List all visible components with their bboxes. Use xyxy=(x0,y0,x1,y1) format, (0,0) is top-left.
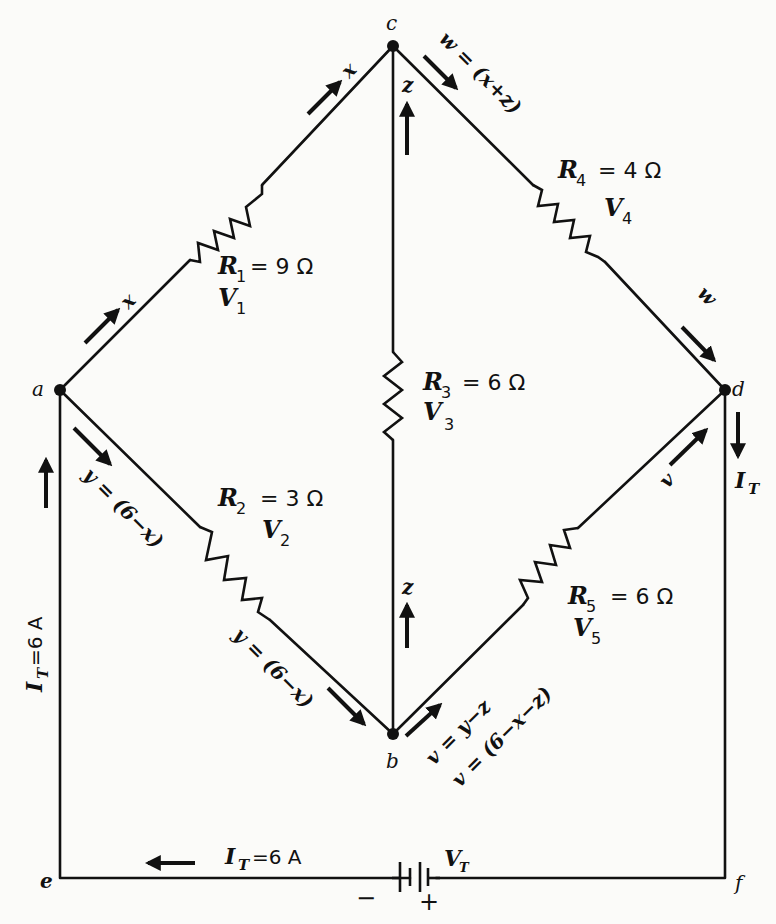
svg-text:=6 A: =6 A xyxy=(252,845,302,869)
svg-text:5: 5 xyxy=(591,629,601,648)
it-right-label: I T xyxy=(734,467,761,498)
svg-text:3: 3 xyxy=(441,383,451,402)
svg-text:2: 2 xyxy=(236,499,246,518)
node-d-label: d xyxy=(732,377,745,401)
current-x-lower-label: x xyxy=(114,287,141,314)
battery-plus-label: + xyxy=(419,888,439,916)
svg-text:R: R xyxy=(557,155,578,184)
svg-text:= 6 Ω: = 6 Ω xyxy=(610,584,673,609)
svg-text:T: T xyxy=(748,480,761,498)
svg-text:=6 A: =6 A xyxy=(23,616,47,666)
node-d-dot xyxy=(719,384,731,396)
arrow-w-right-icon xyxy=(682,327,714,360)
r2-label: R 2 = 3 Ω V 2 xyxy=(217,483,323,550)
arrow-y-lower-icon xyxy=(328,688,364,724)
it-bottom-label: I T =6 A xyxy=(224,843,302,874)
svg-text:4: 4 xyxy=(622,209,632,228)
svg-text:1: 1 xyxy=(236,299,246,318)
current-v-right-label: v xyxy=(654,467,679,492)
svg-text:R: R xyxy=(217,251,238,280)
svg-text:4: 4 xyxy=(576,171,586,190)
node-b-label: b xyxy=(386,749,399,773)
current-z-upper-label: z xyxy=(401,73,414,97)
svg-text:R: R xyxy=(217,483,238,512)
svg-text:R: R xyxy=(422,367,443,396)
current-x-upper-label: x xyxy=(335,57,362,84)
circuit-diagram: c a d b e f x x z z w = (x+z) w y = (6−x… xyxy=(0,0,776,924)
svg-text:I: I xyxy=(21,681,47,693)
r1-label: R 1 = 9 Ω V 1 xyxy=(217,251,313,318)
current-w-top-label: w = (x+z) xyxy=(434,27,527,120)
current-y-lower-label: y = (6−x) xyxy=(228,622,319,713)
svg-text:T: T xyxy=(238,856,251,874)
branch-ab-r2 xyxy=(60,390,393,734)
svg-text:= 6 Ω: = 6 Ω xyxy=(462,370,525,395)
current-w-right-label: w xyxy=(693,281,723,311)
svg-text:= 3 Ω: = 3 Ω xyxy=(260,486,323,511)
r5-label: R 5 = 6 Ω V 5 xyxy=(567,581,673,648)
branch-cd-r4 xyxy=(393,46,725,390)
branch-bd-r5 xyxy=(393,390,725,734)
svg-text:T: T xyxy=(34,666,52,679)
node-f-label: f xyxy=(733,871,746,895)
node-c-dot xyxy=(387,40,399,52)
svg-text:2: 2 xyxy=(280,531,290,550)
r3-label: R 3 = 6 Ω V 3 xyxy=(422,367,525,434)
svg-text:I: I xyxy=(734,467,746,493)
it-left-label: I T =6 A xyxy=(21,616,52,693)
svg-text:1: 1 xyxy=(236,267,246,286)
branch-cb-r3 xyxy=(384,46,402,734)
node-b-dot xyxy=(387,728,399,740)
svg-text:= 4 Ω: = 4 Ω xyxy=(598,158,661,183)
battery-vt-label: V T xyxy=(444,845,470,875)
svg-text:V: V xyxy=(423,397,444,426)
svg-text:3: 3 xyxy=(444,415,454,434)
svg-text:R: R xyxy=(567,581,588,610)
r4-label: R 4 = 4 Ω V 4 xyxy=(557,155,661,228)
svg-text:= 9 Ω: = 9 Ω xyxy=(250,254,313,279)
current-y-upper-label: y = (6−x) xyxy=(78,462,169,553)
node-e-label: e xyxy=(40,869,53,893)
node-c-label: c xyxy=(386,11,397,35)
current-z-lower-label: z xyxy=(401,575,414,599)
node-a-label: a xyxy=(32,377,44,401)
battery-minus-label: − xyxy=(356,884,376,912)
node-a-dot xyxy=(54,384,66,396)
branch-ac-r1 xyxy=(60,46,393,390)
svg-text:T: T xyxy=(459,860,470,875)
svg-text:I: I xyxy=(224,843,236,869)
arrow-v-lower-icon xyxy=(406,705,440,736)
